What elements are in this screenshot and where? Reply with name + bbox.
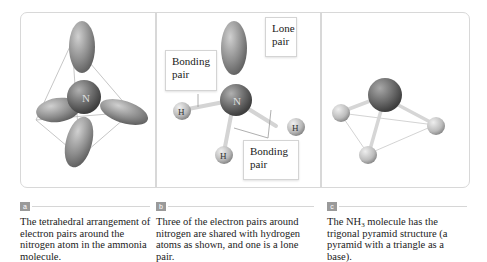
svg-text:H: H (178, 107, 185, 117)
orbital-top (69, 21, 95, 73)
badge-c: c (327, 202, 337, 211)
panel-c-label: c (327, 202, 467, 212)
caption-b: Three of the electron pairs around nitro… (156, 216, 316, 262)
bonding-pair-callout-top: Bonding pair (165, 50, 217, 91)
svg-text:H: H (220, 151, 227, 161)
hydrogen-atom (332, 104, 350, 122)
pyramid-base (340, 113, 435, 154)
panel-b-label: b (156, 202, 314, 212)
badge-rule (168, 206, 314, 207)
nitrogen-atom (368, 78, 402, 112)
lone-pair-callout: Lone pair (265, 17, 297, 57)
caption-a: The tetrahedral arrangement of electron … (20, 216, 155, 262)
panel-a-label: a (20, 202, 150, 212)
svg-text:N: N (82, 92, 90, 104)
badge-b: b (156, 202, 166, 211)
badge-rule (339, 206, 467, 207)
svg-text:H: H (292, 123, 299, 133)
svg-text:N: N (233, 95, 241, 107)
tetrahedral-orbitals-diagram: N (20, 12, 155, 188)
badge-rule (32, 206, 150, 207)
orbital-right (97, 94, 151, 130)
bonding-pair-callout-bottom: Bonding pair (243, 140, 299, 180)
orbital-bottom (60, 114, 99, 171)
caption-c: The NH3 molecule has the trigonal pyrami… (327, 216, 467, 262)
trigonal-pyramid-diagram (321, 12, 470, 188)
hydrogen-atom (359, 146, 377, 164)
badge-a: a (20, 202, 30, 211)
lone-pair-orbital (221, 21, 247, 75)
hydrogen-atom (427, 117, 445, 135)
